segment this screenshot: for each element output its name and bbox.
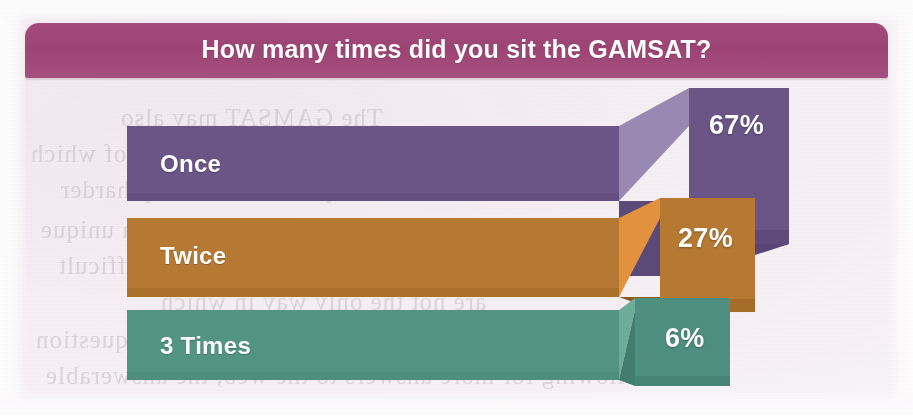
bar-chart-svg: [0, 80, 913, 416]
bar-once-body: [127, 126, 619, 201]
bar-group-twice: [127, 198, 755, 312]
bar-3times-cap-shade: [635, 376, 730, 386]
page-title: How many times did you sit the GAMSAT?: [25, 35, 888, 64]
chart-title-banner: How many times did you sit the GAMSAT?: [25, 23, 888, 78]
bar-chart: Once Twice 3 Times 67% 27% 6%: [0, 80, 913, 416]
bar-group-3times: [127, 298, 730, 386]
chart-screenshot: The GAMSAT may also give a rough idea of…: [0, 0, 913, 416]
bar-3times-body-shade: [127, 372, 619, 380]
bar-twice-body: [127, 218, 619, 297]
bar-3times-body: [127, 310, 619, 380]
bar-twice-cap: [660, 198, 755, 312]
bar-3times-cap: [635, 298, 730, 386]
paper-edge-top: [0, 0, 913, 22]
bar-once-body-shade: [127, 193, 619, 201]
bar-twice-body-shade: [127, 288, 619, 297]
